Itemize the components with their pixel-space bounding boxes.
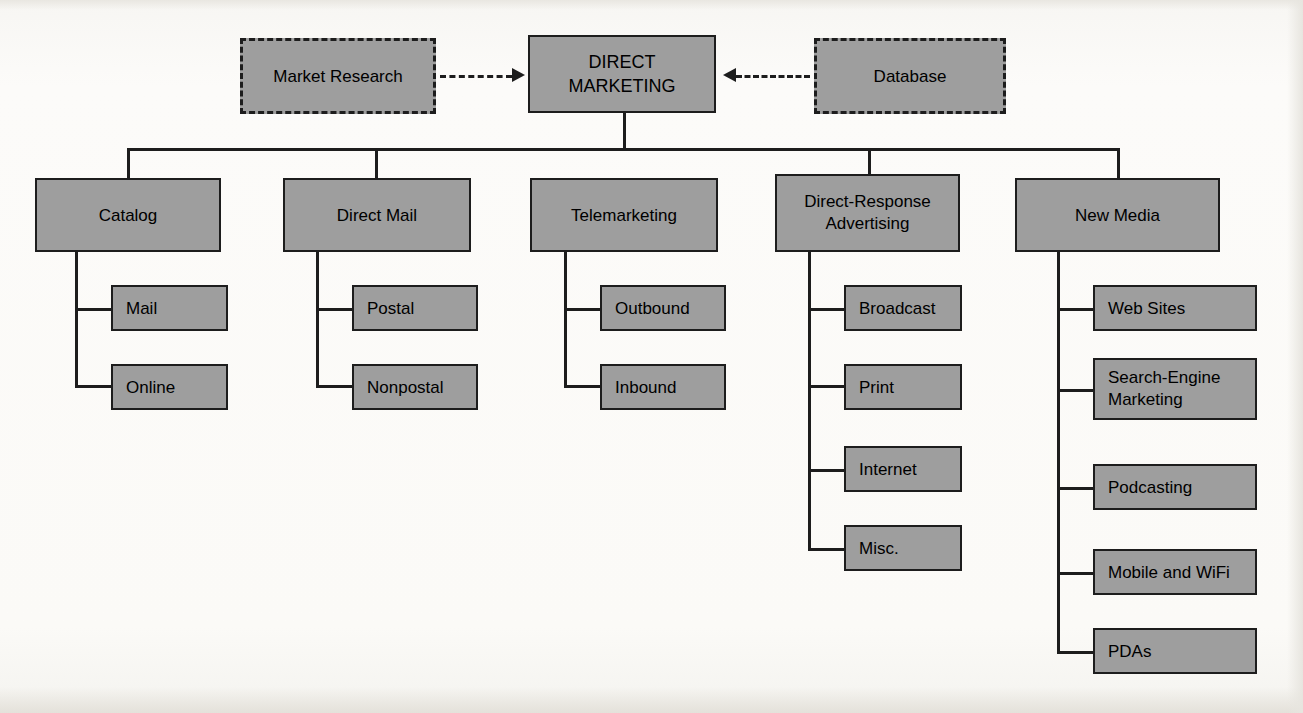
connector-stub-direct-mail-postal: [316, 308, 354, 311]
diagram-canvas: Market Research DIRECT MARKETING Databas…: [0, 0, 1303, 713]
connector-stub-telemarketing-inbound: [564, 385, 602, 388]
node-label: Mail: [126, 298, 157, 319]
connector-root-drop: [623, 113, 626, 151]
node-dr-broadcast[interactable]: Broadcast: [844, 285, 962, 331]
node-label: PDAs: [1108, 641, 1151, 662]
connector-stub-catalog-online: [75, 385, 113, 388]
node-label: Print: [859, 377, 894, 398]
connector-drop-catalog: [127, 148, 130, 180]
node-label: Database: [874, 66, 947, 87]
connector-drop-direct-mail: [375, 148, 378, 180]
connector-stub-nm-search-engine: [1057, 389, 1095, 392]
node-label: Telemarketing: [571, 205, 677, 226]
node-telemarketing[interactable]: Telemarketing: [530, 178, 718, 252]
connector-stub-catalog-mail: [75, 308, 113, 311]
connector-stub-nm-podcasting: [1057, 487, 1095, 490]
node-label: Broadcast: [859, 298, 936, 319]
node-label: Market Research: [273, 66, 402, 87]
node-telemarketing-outbound[interactable]: Outbound: [600, 285, 726, 331]
node-catalog[interactable]: Catalog: [35, 178, 221, 252]
connector-drop-direct-response: [868, 148, 871, 176]
node-label: Nonpostal: [367, 377, 444, 398]
connector-stub-nm-mobile-wifi: [1057, 572, 1095, 575]
connector-spine-telemarketing: [564, 250, 567, 387]
node-direct-mail-nonpostal[interactable]: Nonpostal: [352, 364, 478, 410]
node-label: Online: [126, 377, 175, 398]
node-nm-pdas[interactable]: PDAs: [1093, 628, 1257, 674]
node-label: Web Sites: [1108, 298, 1185, 319]
connector-level2-bus: [127, 148, 1120, 151]
connector-spine-direct-mail: [316, 250, 319, 387]
node-dr-internet[interactable]: Internet: [844, 446, 962, 492]
connector-spine-direct-response: [808, 250, 811, 550]
page-edge-bottom: [0, 687, 1303, 713]
node-market-research[interactable]: Market Research: [240, 38, 436, 114]
node-label: Outbound: [615, 298, 690, 319]
connector-stub-nm-pdas: [1057, 651, 1095, 654]
node-direct-mail[interactable]: Direct Mail: [283, 178, 471, 252]
node-direct-marketing-root[interactable]: DIRECT MARKETING: [528, 35, 716, 113]
node-label: Direct-Response Advertising: [804, 191, 931, 235]
connector-drop-new-media: [1117, 148, 1120, 180]
node-catalog-online[interactable]: Online: [111, 364, 228, 410]
dashed-connector-database: [736, 75, 810, 78]
connector-stub-telemarketing-outbound: [564, 308, 602, 311]
connector-stub-nm-web-sites: [1057, 308, 1095, 311]
node-database[interactable]: Database: [814, 38, 1006, 114]
node-direct-response-advertising[interactable]: Direct-Response Advertising: [775, 174, 960, 252]
node-label: Catalog: [99, 205, 158, 226]
node-label: Search-Engine Marketing: [1108, 367, 1220, 411]
node-label: Inbound: [615, 377, 676, 398]
node-label: New Media: [1075, 205, 1160, 226]
connector-stub-dr-broadcast: [808, 308, 846, 311]
node-label: Postal: [367, 298, 414, 319]
node-telemarketing-inbound[interactable]: Inbound: [600, 364, 726, 410]
node-nm-web-sites[interactable]: Web Sites: [1093, 285, 1257, 331]
connector-spine-catalog: [75, 250, 78, 387]
node-label: Podcasting: [1108, 477, 1192, 498]
node-label: Direct Mail: [337, 205, 417, 226]
connector-stub-dr-internet: [808, 469, 846, 472]
node-label: Internet: [859, 459, 917, 480]
node-direct-mail-postal[interactable]: Postal: [352, 285, 478, 331]
connector-stub-dr-print: [808, 385, 846, 388]
node-label: Mobile and WiFi: [1108, 562, 1230, 583]
page-edge-top: [0, 0, 1303, 10]
node-catalog-mail[interactable]: Mail: [111, 285, 228, 331]
node-new-media[interactable]: New Media: [1015, 178, 1220, 252]
node-nm-search-engine-marketing[interactable]: Search-Engine Marketing: [1093, 358, 1257, 420]
arrowhead-left-to-root: [723, 68, 736, 82]
connector-stub-direct-mail-nonpostal: [316, 385, 354, 388]
node-label: DIRECT MARKETING: [568, 50, 675, 98]
node-nm-mobile-wifi[interactable]: Mobile and WiFi: [1093, 549, 1257, 595]
node-label: Misc.: [859, 538, 899, 559]
node-dr-print[interactable]: Print: [844, 364, 962, 410]
connector-stub-dr-misc: [808, 548, 846, 551]
node-dr-misc[interactable]: Misc.: [844, 525, 962, 571]
page-edge-right: [1287, 0, 1303, 713]
arrowhead-right-to-root: [512, 68, 525, 82]
node-nm-podcasting[interactable]: Podcasting: [1093, 464, 1257, 510]
dashed-connector-market-research: [440, 75, 512, 78]
